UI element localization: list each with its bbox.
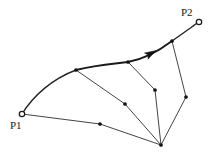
n-upper-right (170, 39, 174, 43)
n-right-side (184, 95, 188, 99)
figure-canvas: P1P2 (0, 0, 214, 160)
endpoint-label-p2: P2 (181, 6, 193, 18)
endpoint-label-p1: P1 (10, 119, 22, 131)
n-interior-mid (123, 102, 127, 106)
n-interior-right (153, 88, 157, 92)
n-apex (159, 143, 163, 147)
endpoint-marker-p2 (196, 19, 201, 24)
n-lower-left (98, 122, 102, 126)
n-upper-mid (126, 60, 130, 64)
curve-diagram-svg: P1P2 (0, 0, 214, 160)
n-upper-left (74, 68, 78, 72)
endpoint-marker-p1 (19, 111, 24, 116)
